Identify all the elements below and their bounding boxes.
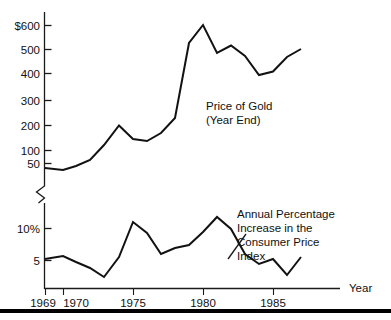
gold-y-label-300: 300	[21, 95, 40, 107]
gold-y-label-600: $600	[14, 20, 40, 32]
x-label-1985: 1985	[260, 297, 286, 309]
gold-annotation-line2: (Year End)	[206, 114, 261, 126]
gold-y-label-100: 100	[21, 145, 40, 157]
gold-price-line	[45, 25, 301, 170]
x-label-1980: 1980	[190, 297, 216, 309]
bottom-panel-cpi: 10% 5 1969 1970 1975 1980 1985 Year Annu…	[17, 203, 372, 309]
cpi-y-label-10: 10%	[17, 223, 40, 235]
top-panel-gold: $600 500 400 300 200 100 50 Price of Gol…	[14, 12, 301, 203]
gold-price-cpi-figure: $600 500 400 300 200 100 50 Price of Gol…	[0, 0, 391, 320]
x-axis-title: Year	[349, 282, 372, 294]
x-label-1970: 1970	[63, 297, 89, 309]
gold-annotation-line1: Price of Gold	[206, 100, 272, 112]
gold-y-label-200: 200	[21, 120, 40, 132]
cpi-annotation-line2: Increase in the	[237, 222, 312, 234]
gold-y-label-500: 500	[21, 44, 40, 56]
cpi-y-label-5: 5	[34, 255, 40, 267]
cpi-annotation-line4: Index	[237, 250, 265, 262]
gold-y-label-50: 50	[27, 158, 40, 170]
bottom-divider-rule	[0, 309, 391, 313]
chart-svg: $600 500 400 300 200 100 50 Price of Gol…	[0, 0, 391, 320]
gold-y-label-400: 400	[21, 68, 40, 80]
y-axis-break-icon	[37, 183, 45, 203]
x-label-1969: 1969	[30, 297, 56, 309]
cpi-annotation-line1: Annual Percentage	[237, 208, 335, 220]
cpi-annotation-line3: Consumer Price	[237, 236, 319, 248]
x-label-1975: 1975	[120, 297, 146, 309]
